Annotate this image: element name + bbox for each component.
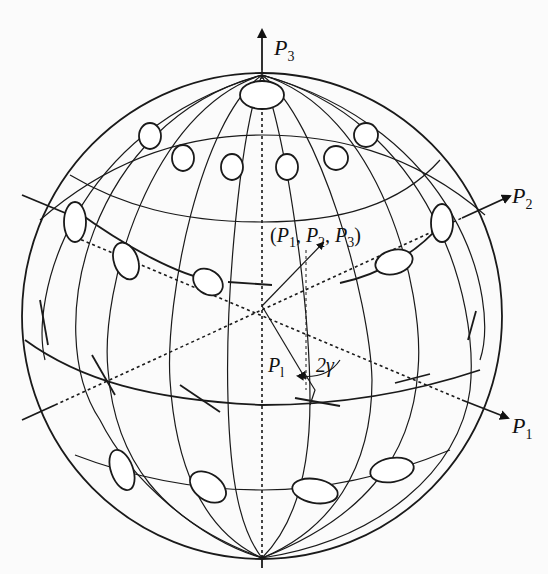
poincare-sphere-diagram: P3 P2 P1 (P1, P2, P3) Pl 2γ (0, 0, 548, 574)
point-label: (P1, P2, P3) (270, 224, 361, 250)
p2-label: P2 (511, 183, 532, 212)
axis-arrows (22, 30, 510, 568)
pol-ellipse (354, 123, 378, 147)
pl-label: Pl (267, 354, 284, 380)
north-pole-circle (240, 81, 284, 109)
angle-label: 2γ (316, 354, 335, 377)
pol-ellipse (276, 154, 298, 180)
linear-mark (468, 311, 476, 340)
linear-polarization-marks (40, 300, 476, 412)
state-vector-arrow (262, 243, 323, 306)
equator (25, 340, 480, 405)
pol-ellipse (221, 154, 243, 180)
p1-label: P1 (511, 413, 532, 442)
latitude-upper-1 (40, 135, 485, 220)
pol-ellipse (64, 202, 86, 242)
latitude-upper-2 (70, 160, 440, 222)
pol-ellipse (172, 145, 194, 171)
p2-axis-arrow (462, 196, 510, 218)
pol-ellipse (104, 447, 139, 494)
pol-ellipse (139, 123, 161, 149)
p2-axis-neg (22, 405, 55, 420)
meridians (42, 75, 484, 558)
p1-axis-arrow (462, 400, 508, 418)
pol-ellipse (108, 239, 144, 283)
pol-ellipse (290, 475, 339, 507)
p3-label: P3 (273, 35, 294, 64)
pol-ellipse (368, 454, 415, 485)
pol-ellipse (184, 465, 232, 509)
pol-ellipse (431, 204, 453, 242)
pol-ellipse (324, 146, 348, 170)
linear-mark (92, 355, 115, 395)
meridian (228, 75, 262, 558)
pol-ellipse (188, 263, 228, 301)
linear-mark (395, 374, 430, 383)
axes-dashed (55, 70, 462, 560)
